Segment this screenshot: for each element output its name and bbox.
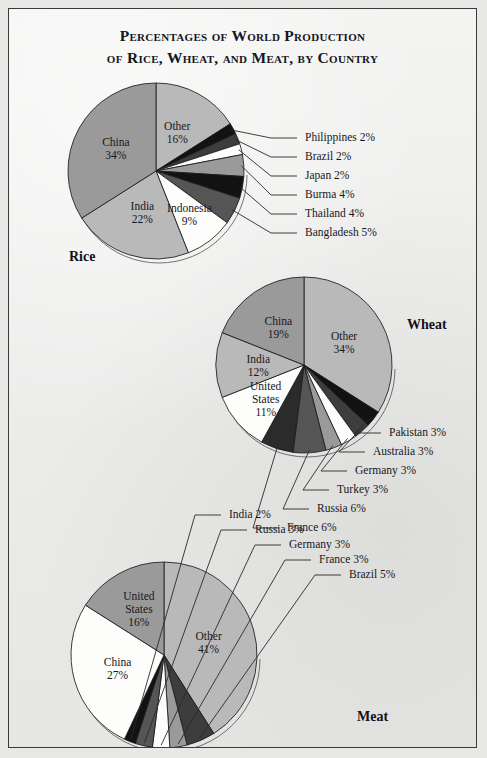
leader-label-brazil: Brazil 5% — [349, 568, 396, 580]
pie-label-other: Other41% — [196, 630, 222, 655]
leader-label-germany: Germany 3% — [289, 538, 350, 551]
pie-chart-meat: Other41%China27%UnitedStates16%India 2%R… — [9, 9, 477, 748]
chart-name-meat: Meat — [357, 709, 388, 724]
leader-label-france: France 3% — [319, 553, 369, 565]
leader-label-india: India 2% — [229, 508, 271, 520]
figure-panel: Percentages of World Production of Rice,… — [8, 8, 477, 748]
leader-label-russia: Russia 3% — [255, 523, 304, 535]
pie-label-china: China27% — [104, 656, 131, 681]
